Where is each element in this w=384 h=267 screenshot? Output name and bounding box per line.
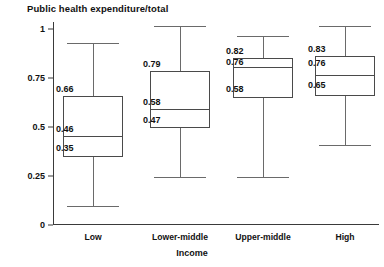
label-q1-low: 0.35 [56, 143, 74, 153]
y-tick-mark-1 [48, 176, 53, 177]
median-line-upper-middle [233, 67, 293, 68]
median-line-lower-middle [150, 109, 210, 110]
whisker-cap-lower-upper-middle [237, 177, 289, 178]
median-line-low [63, 136, 123, 137]
x-tick-label-upper-middle: Upper-middle [235, 232, 290, 242]
label-q1-upper-middle: 0.58 [226, 84, 244, 94]
label-median-high: 0.76 [308, 58, 326, 68]
y-tick-mark-2 [48, 127, 53, 128]
chart-title: Public health expenditure/total [27, 3, 168, 14]
label-median-lower-middle: 0.58 [143, 97, 161, 107]
label-median-upper-middle: 0.76 [226, 57, 244, 67]
whisker-cap-upper-low [67, 43, 119, 44]
y-tick-label-3: 0.75 [27, 73, 45, 83]
label-q3-low: 0.66 [56, 84, 74, 94]
whisker-cap-lower-lower-middle [154, 177, 206, 178]
y-tick-label-0: 0 [40, 220, 45, 230]
label-q3-high: 0.83 [308, 44, 326, 54]
label-q1-lower-middle: 0.47 [143, 115, 161, 125]
label-q3-lower-middle: 0.79 [143, 59, 161, 69]
y-tick-mark-4 [48, 29, 53, 30]
y-tick-label-4: 1 [40, 24, 45, 34]
whisker-cap-upper-high [319, 26, 371, 27]
whisker-cap-upper-lower-middle [154, 26, 206, 27]
whisker-cap-lower-low [67, 206, 119, 207]
label-median-low: 0.46 [56, 124, 74, 134]
label-q1-high: 0.65 [308, 80, 326, 90]
x-tick-label-lower-middle: Lower-middle [152, 232, 208, 242]
y-tick-label-1: 0.25 [27, 171, 45, 181]
y-tick-label-2: 0.5 [32, 122, 45, 132]
boxplot-chart: Public health expenditure/total 0 0.25 0… [0, 0, 384, 267]
whisker-cap-lower-high [319, 145, 371, 146]
x-tick-label-low: Low [84, 232, 101, 242]
x-tick-label-high: High [335, 232, 354, 242]
label-q3-upper-middle: 0.82 [226, 46, 244, 56]
y-tick-mark-0 [48, 225, 53, 226]
x-axis-title: Income [0, 248, 384, 258]
median-line-high [315, 75, 375, 76]
y-tick-mark-3 [48, 78, 53, 79]
whisker-cap-upper-upper-middle [237, 36, 289, 37]
